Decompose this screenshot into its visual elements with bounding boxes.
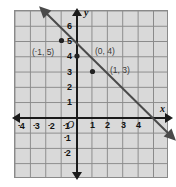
y-tick-4: 4 — [67, 52, 72, 61]
x-tick-2: 2 — [105, 121, 110, 130]
x-tick-value: 1 — [90, 120, 95, 130]
point-label-a-text: 1, 5) — [37, 47, 54, 57]
y-tick-value: 3 — [67, 67, 72, 77]
y-tick-2: 2 — [67, 83, 72, 92]
y-tick-5: 5 — [67, 37, 72, 46]
y-tick-value: 6 — [67, 21, 72, 31]
y-tick-value: 1 — [67, 97, 72, 107]
data-point-b — [74, 53, 79, 58]
x-tick-3: 3 — [121, 121, 126, 130]
data-point-a — [59, 38, 64, 43]
plotted-line — [0, 0, 176, 187]
x-tick--3: -3 — [33, 121, 40, 131]
x-tick-value: 2 — [50, 121, 55, 131]
y-tick-value: 5 — [67, 36, 72, 46]
x-tick-value: 4 — [136, 120, 141, 130]
y-tick--1: -1 — [64, 133, 71, 143]
coordinate-plane-figure: x y -4 -3 -2 -1 1 2 3 4 O 6 5 4 3 2 1 -1… — [0, 0, 176, 187]
x-tick--4: -4 — [18, 121, 25, 131]
point-label-c: (1, 3) — [110, 66, 130, 75]
x-tick-value: 4 — [20, 121, 25, 131]
y-tick-1: 1 — [67, 98, 72, 107]
y-tick-value: 2 — [67, 82, 72, 92]
y-tick--2: -2 — [64, 148, 71, 158]
x-tick-1: 1 — [90, 121, 95, 130]
x-tick--2: -2 — [48, 121, 55, 131]
origin-label: O — [67, 119, 74, 130]
x-tick-value: 3 — [121, 120, 126, 130]
x-tick-value: 2 — [105, 120, 110, 130]
x-tick-value: 3 — [35, 121, 40, 131]
y-tick-value: 4 — [67, 51, 72, 61]
y-tick-value: 2 — [66, 148, 71, 158]
point-label-b: (0, 4) — [95, 47, 115, 56]
y-tick-3: 3 — [67, 68, 72, 77]
data-point-c — [90, 69, 95, 74]
y-tick-6: 6 — [67, 22, 72, 31]
y-tick-value: 1 — [66, 133, 71, 143]
point-label-a: (-1, 5) — [32, 47, 54, 57]
x-tick-4: 4 — [136, 121, 141, 130]
